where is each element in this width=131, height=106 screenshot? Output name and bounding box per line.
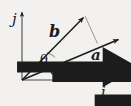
- y-axis-label-text: j: [12, 10, 17, 28]
- diagram-canvas: [0, 0, 131, 106]
- x-axis-label-text: i: [101, 83, 106, 101]
- x-axis-label: i: [101, 85, 106, 100]
- vector-diagram: j i b a θ φ: [0, 0, 131, 106]
- y-axis-label: j: [12, 12, 17, 27]
- projection-line: [85, 16, 98, 44]
- vector-a-label-text: a: [91, 46, 101, 64]
- angle-theta-label: θ: [40, 53, 48, 66]
- vector-a-label: a: [91, 48, 101, 63]
- vector-b-label-text: b: [49, 22, 60, 41]
- vector-b-label: b: [49, 24, 60, 40]
- angle-phi-label: φ: [50, 63, 60, 77]
- angle-phi-arc: [67, 60, 70, 80]
